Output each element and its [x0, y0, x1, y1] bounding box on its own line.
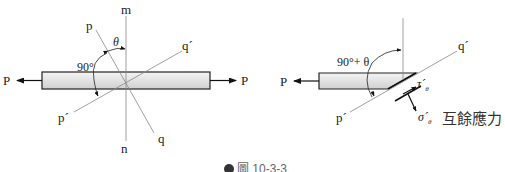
label-q-prime-2: q´: [458, 38, 469, 53]
label-p-prime-2: p´: [336, 110, 347, 125]
label-angle-90: 90°: [77, 60, 94, 74]
right-diagram: P p´ q´ 90°+ θ τ´θ σ´θ 互餘應力: [280, 18, 502, 128]
label-p: p: [86, 18, 93, 33]
label-complementary-stress: 互餘應力: [442, 110, 502, 128]
label-tau: τ´θ: [417, 77, 429, 93]
figure-canvas: P P m n p q p´ q´ θ 90° P p´ q´ 90°+ θ τ…: [0, 0, 505, 172]
label-force-left-2: P: [280, 74, 287, 89]
left-diagram: P P m n p q p´ q´ θ 90°: [3, 2, 248, 156]
label-p-prime: p´: [58, 110, 69, 125]
sigma-arrow: [408, 94, 416, 111]
label-force-right: P: [241, 73, 248, 88]
caption-text: 圖 10-3-3: [237, 162, 287, 172]
angle-arc-tail: [372, 91, 374, 96]
label-theta: θ: [113, 35, 119, 49]
label-force-left: P: [3, 73, 10, 88]
caption-bullet-icon: [224, 164, 234, 172]
label-angle-90-theta: 90°+ θ: [337, 55, 370, 69]
label-q-prime: q´: [182, 38, 193, 53]
label-m: m: [121, 2, 131, 17]
label-n: n: [121, 141, 128, 156]
label-q: q: [158, 131, 165, 146]
figure-caption: 圖 10-3-3: [224, 162, 287, 172]
label-sigma: σ´θ: [418, 110, 432, 126]
